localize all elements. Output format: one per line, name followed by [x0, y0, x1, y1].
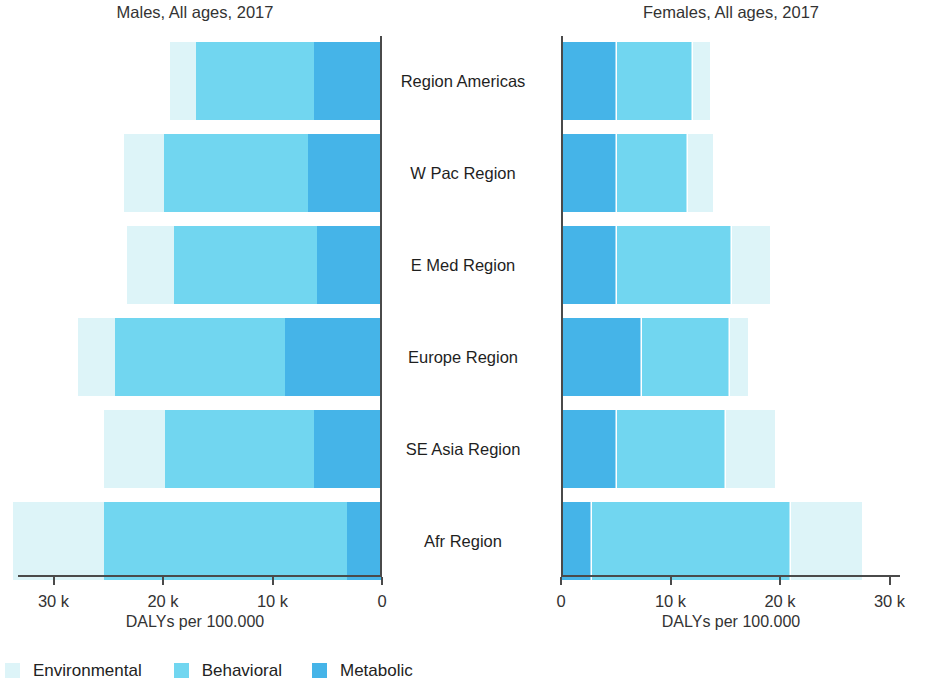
- legend-label: Environmental: [33, 661, 142, 681]
- male-bar-segment-environmental: [124, 134, 165, 212]
- axis-tick-label: 0: [556, 592, 565, 611]
- male-bar-segment-environmental: [104, 410, 165, 488]
- male-bar-segment-metabolic: [314, 410, 382, 488]
- male-bar-segment-behavioral: [164, 134, 307, 212]
- axis-tick-mark: [53, 577, 55, 585]
- female-plot-area: 010 k20 k30 k: [536, 36, 926, 587]
- male-bar-segment-metabolic: [314, 42, 382, 120]
- male-bar-segment-environmental: [78, 318, 115, 396]
- region-label-europe-region: Europe Region: [390, 348, 536, 367]
- male-bar-segment-behavioral: [104, 502, 347, 580]
- female-bar-segment-environmental: [693, 42, 709, 120]
- male-bar-row: [0, 318, 390, 396]
- region-label-se-asia-region: SE Asia Region: [390, 440, 536, 459]
- female-bar-row: [536, 42, 926, 120]
- male-bar-segment-metabolic: [308, 134, 382, 212]
- axis-tick-mark: [560, 577, 562, 585]
- axis-tick-label: 0: [377, 592, 386, 611]
- axis-tick-label: 30 k: [874, 592, 905, 611]
- male-bar-row: [0, 226, 390, 304]
- female-bar-segment-metabolic: [561, 42, 617, 120]
- male-plot-area: 010 k20 k30 k: [0, 36, 390, 587]
- male-bar-segment-environmental: [13, 502, 104, 580]
- male-bar-segment-behavioral: [115, 318, 285, 396]
- male-bar-segment-behavioral: [174, 226, 317, 304]
- female-bar-segment-behavioral: [617, 134, 688, 212]
- male-bar-row: [0, 410, 390, 488]
- legend-item-behavioral[interactable]: Behavioral: [174, 661, 282, 681]
- male-bar-segment-behavioral: [165, 410, 314, 488]
- chart-legend: EnvironmentalBehavioralMetabolic: [0, 655, 926, 686]
- region-label-region-americas: Region Americas: [390, 72, 536, 91]
- female-bar-segment-metabolic: [561, 318, 642, 396]
- female-panel-title: Females, All ages, 2017: [536, 3, 926, 22]
- female-bar-segment-environmental: [688, 134, 713, 212]
- axis-tick-mark: [381, 577, 383, 585]
- axis-tick-label: 30 k: [38, 592, 69, 611]
- male-bar-segment-environmental: [127, 226, 174, 304]
- region-label-w-pac-region: W Pac Region: [390, 164, 536, 183]
- female-bar-row: [536, 502, 926, 580]
- legend-item-environmental[interactable]: Environmental: [5, 661, 142, 681]
- male-bar-row: [0, 502, 390, 580]
- axis-tick-label: 20 k: [147, 592, 178, 611]
- female-bar-row: [536, 318, 926, 396]
- axis-tick-mark: [889, 577, 891, 585]
- female-axis-caption: DALYs per 100.000: [536, 613, 926, 631]
- axis-tick-mark: [162, 577, 164, 585]
- axis-tick-label: 10 k: [655, 592, 686, 611]
- legend-swatch-behavioral: [174, 663, 189, 678]
- male-bar-segment-metabolic: [317, 226, 382, 304]
- female-bar-segment-metabolic: [561, 226, 617, 304]
- male-bar-segment-metabolic: [347, 502, 382, 580]
- region-label-e-med-region: E Med Region: [390, 256, 536, 275]
- axis-tick-label: 10 k: [257, 592, 288, 611]
- axis-tick-mark: [670, 577, 672, 585]
- female-bar-segment-environmental: [791, 502, 862, 580]
- female-bar-segment-environmental: [726, 410, 774, 488]
- female-bar-row: [536, 226, 926, 304]
- axis-tick-mark: [779, 577, 781, 585]
- male-panel-title: Males, All ages, 2017: [0, 3, 390, 22]
- female-bar-segment-behavioral: [617, 410, 727, 488]
- axis-tick-label: 20 k: [764, 592, 795, 611]
- male-bar-segment-metabolic: [285, 318, 382, 396]
- region-label-afr-region: Afr Region: [390, 532, 536, 551]
- legend-swatch-environmental: [5, 663, 20, 678]
- male-baseline-axis: [18, 575, 382, 577]
- female-bar-segment-environmental: [730, 318, 749, 396]
- legend-label: Metabolic: [340, 661, 413, 681]
- chart-root: Males, All ages, 2017 Females, All ages,…: [0, 0, 926, 686]
- male-axis-caption: DALYs per 100.000: [0, 613, 390, 631]
- female-bar-row: [536, 410, 926, 488]
- female-value-axis: [561, 36, 563, 577]
- female-bar-segment-metabolic: [561, 410, 617, 488]
- female-bar-segment-behavioral: [642, 318, 730, 396]
- female-bar-segment-metabolic: [561, 134, 617, 212]
- male-bar-segment-behavioral: [196, 42, 314, 120]
- female-baseline-axis: [561, 575, 900, 577]
- axis-tick-mark: [272, 577, 274, 585]
- female-bar-segment-metabolic: [561, 502, 592, 580]
- male-bar-segment-environmental: [170, 42, 196, 120]
- legend-item-metabolic[interactable]: Metabolic: [312, 661, 413, 681]
- female-bar-segment-behavioral: [617, 226, 732, 304]
- legend-swatch-metabolic: [312, 663, 327, 678]
- region-label-column: Region AmericasW Pac RegionE Med RegionE…: [390, 36, 536, 587]
- female-bar-segment-environmental: [732, 226, 770, 304]
- female-bar-segment-behavioral: [617, 42, 694, 120]
- female-bar-row: [536, 134, 926, 212]
- male-bar-row: [0, 42, 390, 120]
- male-bar-row: [0, 134, 390, 212]
- male-value-axis: [380, 36, 382, 577]
- legend-label: Behavioral: [202, 661, 282, 681]
- female-bar-segment-behavioral: [592, 502, 791, 580]
